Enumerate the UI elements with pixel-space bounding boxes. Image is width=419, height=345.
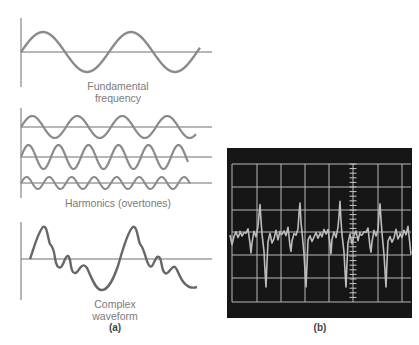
fundamental-wave-plot [21, 18, 212, 87]
complex-label-line2: waveform [92, 310, 138, 322]
fundamental-label-line1: Fundamental [87, 80, 148, 92]
oscilloscope-screen [227, 148, 412, 318]
complex-waveform-plot [21, 222, 212, 300]
figure-graphics [0, 0, 419, 345]
harmonics-plot [21, 108, 212, 198]
panel-b-caption: (b) [314, 322, 327, 334]
fundamental-label-line2: frequency [95, 92, 141, 104]
complex-label-line1: Complex [94, 298, 135, 310]
panel-a-caption: (a) [109, 322, 121, 334]
harmonics-label: Harmonics (overtones) [65, 197, 171, 209]
sound-waveform-figure: Fundamental frequency Harmonics (overton… [0, 0, 419, 345]
